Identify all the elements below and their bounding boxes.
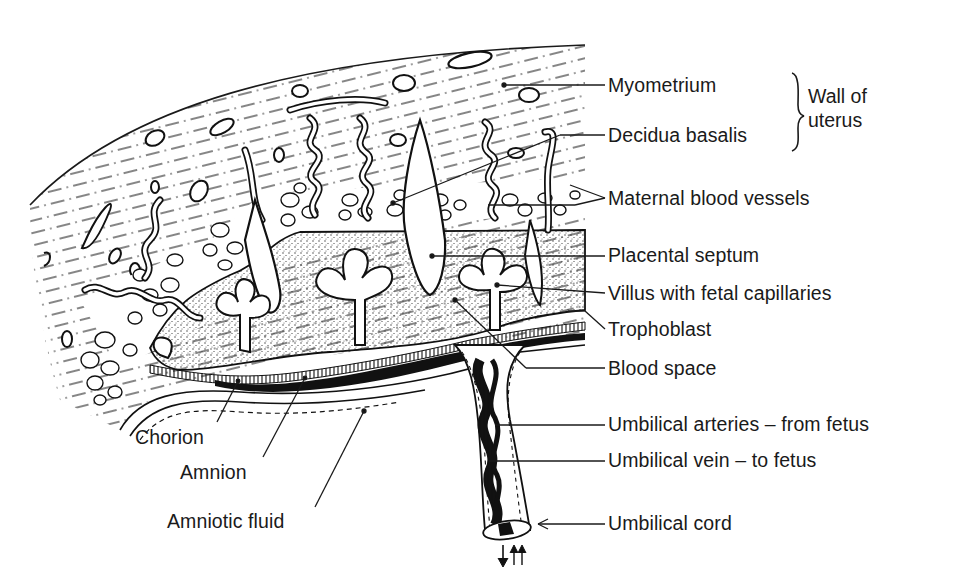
- label-chorion: Chorion: [135, 428, 204, 448]
- label-umbilical-cord: Umbilical cord: [608, 514, 732, 534]
- label-maternal-blood-vessels: Maternal blood vessels: [608, 189, 810, 209]
- label-decidua-basalis: Decidua basalis: [608, 126, 747, 146]
- label-placental-septum: Placental septum: [608, 246, 759, 266]
- placenta-diagram: Myometrium Decidua basalis Maternal bloo…: [0, 0, 972, 578]
- label-umbilical-arteries: Umbilical arteries – from fetus: [608, 415, 869, 435]
- label-wall-of-uterus-line2: uterus: [808, 110, 862, 130]
- label-trophoblast: Trophoblast: [608, 320, 711, 340]
- label-wall-of-uterus-line1: Wall of: [808, 86, 867, 106]
- label-amnion: Amnion: [180, 463, 247, 483]
- label-villus-with-fetal-capillaries: Villus with fetal capillaries: [608, 284, 832, 304]
- left-leader-lines: [217, 376, 366, 507]
- label-umbilical-vein: Umbilical vein – to fetus: [608, 451, 816, 471]
- umbilical-cord-drawing: [455, 345, 532, 567]
- label-myometrium: Myometrium: [608, 76, 716, 96]
- label-blood-space: Blood space: [608, 359, 716, 379]
- label-amniotic-fluid: Amniotic fluid: [167, 512, 284, 532]
